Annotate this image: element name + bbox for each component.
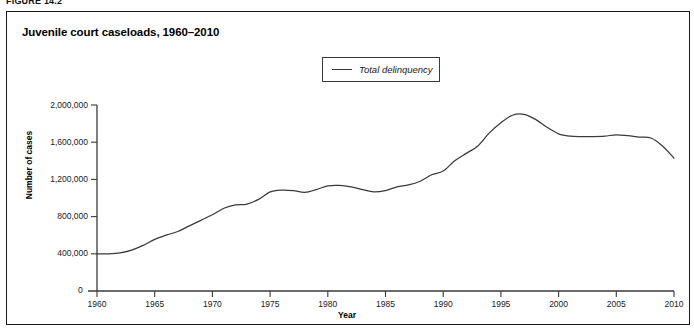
- y-tick-label: 400,000: [28, 248, 88, 258]
- x-tick-label: 2005: [596, 299, 636, 309]
- plot-area: 400,000800,0001,200,0001,600,0002,000,00…: [0, 0, 694, 328]
- x-axis-title: Year: [0, 310, 694, 320]
- x-tick-label: 1965: [135, 299, 175, 309]
- x-tick-label: 2010: [654, 299, 694, 309]
- axis-lines: [88, 105, 674, 291]
- y-tick-label: 1,200,000: [28, 174, 88, 184]
- x-tick-label: 1975: [250, 299, 290, 309]
- y-axis-tick-marks: [91, 105, 97, 254]
- y-tick-label: 800,000: [28, 211, 88, 221]
- x-tick-label: 1970: [192, 299, 232, 309]
- chart-svg: [0, 0, 694, 328]
- x-tick-label: 1995: [481, 299, 521, 309]
- y-tick-label: 1,600,000: [28, 137, 88, 147]
- x-tick-label: 2000: [539, 299, 579, 309]
- series-line-total-delinquency: [97, 114, 674, 254]
- x-tick-label: 1990: [423, 299, 463, 309]
- y-tick-label: 2,000,000: [28, 100, 88, 110]
- x-tick-label: 1960: [77, 299, 117, 309]
- x-axis-tick-marks: [97, 291, 674, 297]
- y-axis-title: Number of cases: [24, 120, 34, 210]
- axis-origin-label: 0: [78, 285, 83, 295]
- x-tick-label: 1980: [308, 299, 348, 309]
- x-tick-label: 1985: [366, 299, 406, 309]
